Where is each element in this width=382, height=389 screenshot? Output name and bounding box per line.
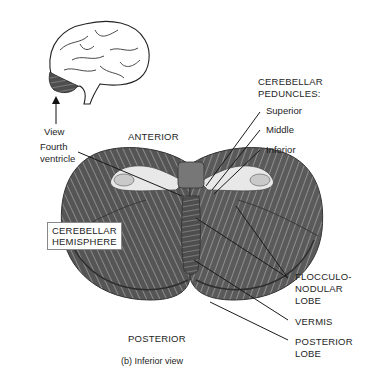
flocculonodular-label-2: NODULAR — [295, 283, 343, 294]
brain-lateral-icon — [49, 21, 149, 124]
cerebellar-hemisphere-label-2: HEMISPHERE — [52, 236, 117, 247]
flocculonodular-label-3: LOBE — [295, 295, 321, 306]
anterior-label: ANTERIOR — [128, 131, 179, 142]
cerebellar-hemisphere-box: CEREBELLAR HEMISPHERE — [47, 222, 122, 250]
inset-view-label: View — [44, 126, 64, 137]
posterior-lobe-label-2: LOBE — [295, 348, 321, 359]
figure-caption: (b) Inferior view — [121, 356, 183, 367]
middle-peduncle-label: Middle — [266, 124, 294, 135]
fourth-ventricle-label-2: ventricle — [40, 153, 75, 164]
cerebellar-hemisphere-label-1: CEREBELLAR — [52, 225, 117, 236]
leader-posterior-lobe — [210, 302, 288, 340]
posterior-orientation-label: POSTERIOR — [128, 333, 186, 344]
posterior-lobe-label-1: POSTERIOR — [295, 336, 353, 347]
peduncles-title-1: CEREBELLAR — [258, 76, 323, 87]
vermis-label: VERMIS — [295, 316, 333, 327]
cerebellum-diagram — [0, 0, 382, 389]
superior-peduncle-label: Superior — [266, 105, 302, 116]
fourth-ventricle-label-1: Fourth — [40, 141, 67, 152]
peduncles-title-2: PEDUNCLES: — [258, 88, 321, 99]
flocculonodular-label-1: FLOCCULO- — [295, 271, 352, 282]
inferior-peduncle-label: Inferior — [266, 144, 296, 155]
